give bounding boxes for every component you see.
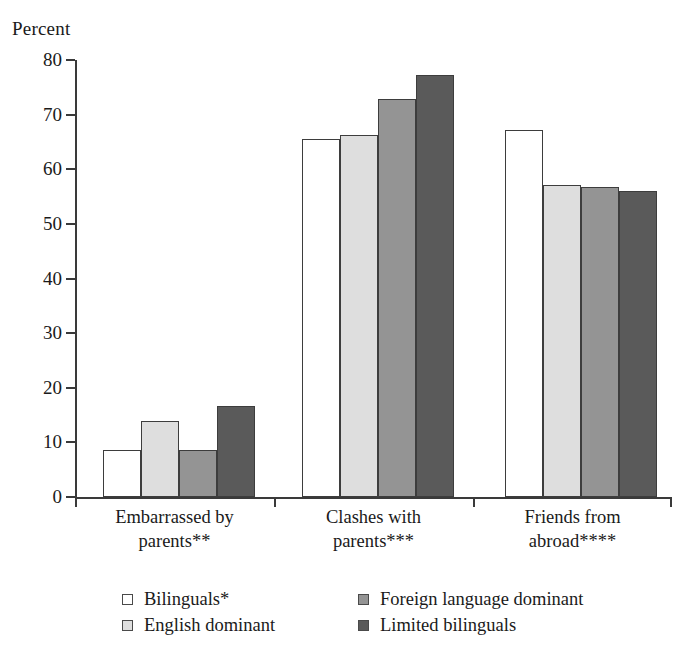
y-axis-tick-label: 80	[43, 49, 62, 71]
y-axis-tick-mark	[66, 496, 75, 498]
y-axis-tick-label: 50	[43, 213, 62, 235]
y-axis-tick-label: 0	[53, 486, 63, 508]
y-axis-tick-label: 60	[43, 158, 62, 180]
legend-swatch-icon	[358, 620, 369, 631]
bar	[543, 185, 581, 497]
x-axis-line	[75, 497, 672, 499]
legend-label: Limited bilinguals	[380, 615, 516, 636]
bar	[103, 450, 141, 497]
legend-item: Foreign language dominant	[358, 586, 583, 612]
bar	[505, 130, 543, 497]
plot-area: 01020304050607080	[75, 60, 672, 497]
y-axis-tick-mark	[66, 223, 75, 225]
y-axis-tick-label: 70	[43, 104, 62, 126]
bar	[217, 406, 255, 497]
legend-item: Limited bilinguals	[358, 612, 583, 638]
y-axis-tick-mark	[66, 441, 75, 443]
y-axis-tick-mark	[66, 387, 75, 389]
bar	[416, 75, 454, 497]
y-axis-tick-mark	[66, 168, 75, 170]
bar	[141, 421, 179, 497]
bar	[619, 191, 657, 497]
y-axis-line	[75, 60, 77, 497]
bar	[340, 135, 378, 497]
x-axis-category-label: Embarrassed by parents**	[75, 505, 274, 554]
x-axis-category-label: Friends from abroad****	[473, 505, 672, 554]
bar	[581, 187, 619, 497]
bar	[302, 139, 340, 497]
bar	[179, 450, 217, 497]
y-axis-tick-label: 20	[43, 377, 62, 399]
y-axis-title: Percent	[12, 18, 70, 40]
x-axis-category-label: Clashes with parents***	[274, 505, 473, 554]
y-axis-tick-mark	[66, 278, 75, 280]
y-axis-tick-label: 10	[43, 431, 62, 453]
legend-item: Bilinguals*	[122, 586, 358, 612]
legend-swatch-icon	[358, 594, 369, 605]
legend-label: Bilinguals*	[144, 589, 229, 610]
legend-label: English dominant	[144, 615, 275, 636]
bar	[378, 99, 416, 497]
chart-legend: Bilinguals*Foreign language dominantEngl…	[122, 586, 583, 638]
bar-chart: Percent 01020304050607080 Embarrassed by…	[0, 0, 689, 653]
y-axis-tick-mark	[66, 332, 75, 334]
y-axis-tick-label: 40	[43, 268, 62, 290]
y-axis-tick-mark	[66, 59, 75, 61]
y-axis-tick-mark	[66, 114, 75, 116]
legend-swatch-icon	[122, 620, 133, 631]
legend-label: Foreign language dominant	[380, 589, 583, 610]
y-axis-tick-label: 30	[43, 322, 62, 344]
legend-swatch-icon	[122, 594, 133, 605]
legend-item: English dominant	[122, 612, 358, 638]
